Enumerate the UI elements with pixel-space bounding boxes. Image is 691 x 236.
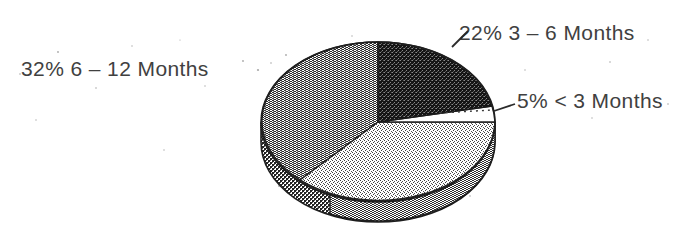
- chart-stage: 22% 3 – 6 Months 32% 6 – 12 Months 5% < …: [0, 0, 691, 236]
- slice-label-under-3-months: 5% < 3 Months: [517, 89, 663, 113]
- pie-chart-figure: 22% 3 – 6 Months 32% 6 – 12 Months 5% < …: [0, 0, 691, 236]
- slice-label-3-6-months: 22% 3 – 6 Months: [459, 21, 635, 45]
- pie-slices: [261, 42, 495, 202]
- slice-label-6-12-months: 32% 6 – 12 Months: [21, 57, 209, 81]
- leader-line-under-3-months: [494, 104, 515, 111]
